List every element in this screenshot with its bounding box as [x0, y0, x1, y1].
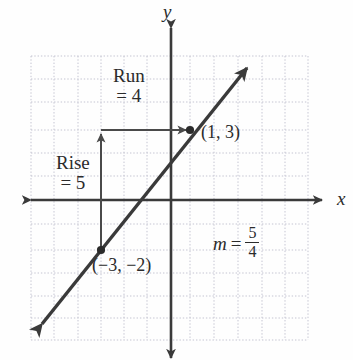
slope-graph-figure: y x Run = 4 Rise = 5 (1, 3) (−3, −2) m =…: [0, 0, 353, 360]
run-annotation-line2: = 4: [113, 86, 145, 106]
rise-annotation-line2: = 5: [56, 173, 90, 193]
slope-numerator: 5: [245, 225, 259, 242]
rise-annotation: Rise = 5: [56, 153, 90, 193]
slope-variable: m: [213, 234, 227, 254]
slope-fraction: 5 4: [245, 225, 259, 260]
grid-lines: [31, 56, 308, 340]
point-marker-upper: [186, 126, 194, 134]
run-annotation: Run = 4: [113, 66, 145, 106]
coordinate-plane-svg: [0, 0, 353, 360]
point-label-upper: (1, 3): [201, 123, 240, 142]
point-marker-lower: [97, 246, 105, 254]
slope-denominator: 4: [245, 242, 259, 260]
run-annotation-line1: Run: [113, 65, 145, 86]
slope-equation: m = 5 4: [213, 226, 259, 261]
x-axis-label: x: [337, 189, 345, 209]
rise-annotation-line1: Rise: [56, 152, 90, 173]
y-axis-label: y: [163, 2, 171, 22]
point-label-lower: (−3, −2): [92, 256, 151, 275]
plotted-line: [42, 68, 247, 324]
slope-equals-sign: =: [230, 234, 243, 254]
